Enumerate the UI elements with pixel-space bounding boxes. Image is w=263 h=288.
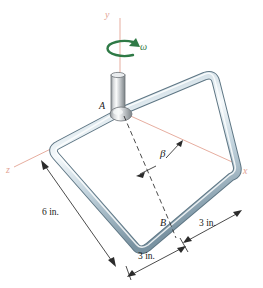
x-axis-label: x: [243, 166, 247, 176]
dimension-3in-bottom-label: 3 in.: [138, 252, 155, 262]
z-axis-label: z: [6, 165, 10, 175]
dim-3in-right-arrowhead-left-icon: [183, 236, 192, 243]
dimension-3in-right-label: 3 in.: [199, 219, 216, 229]
point-B-label: B: [160, 218, 166, 228]
dimensions-layer: [0, 0, 263, 288]
y-axis-label: y: [105, 10, 109, 20]
figure-canvas: y x z ω A B β 6 in. 3 in. 3 in.: [0, 0, 263, 288]
dim-3in-right-arrowhead-right-icon: [233, 210, 242, 217]
dimension-6in-label: 6 in.: [42, 208, 59, 218]
dim-3in-bottom-arrowhead-right-icon: [177, 246, 186, 253]
point-A-label: A: [99, 101, 105, 111]
dim-6in-arrowhead-bottom-icon: [108, 257, 116, 267]
angle-beta-label: β: [160, 148, 165, 159]
omega-label: ω: [140, 42, 147, 52]
dim-6in-arrowhead-top-icon: [41, 160, 49, 170]
